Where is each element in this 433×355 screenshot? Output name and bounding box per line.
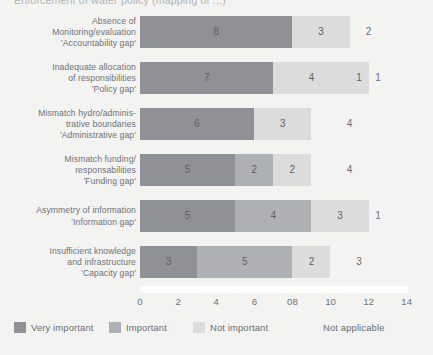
chart-row: Mismatch funding/responsabilities'Fundin… <box>0 154 433 200</box>
legend-swatch <box>306 322 318 333</box>
x-axis-tick-label: 10 <box>316 296 346 307</box>
legend-swatch <box>193 322 205 333</box>
stacked-bar: 5224 <box>140 154 388 186</box>
x-axis-tick-label: 14 <box>392 296 422 307</box>
bar-segment-value: 6 <box>194 118 200 129</box>
bar-segment-value: 1 <box>375 210 381 221</box>
stacked-bar: 832 <box>140 16 388 48</box>
bar-segment: 2 <box>292 246 330 278</box>
category-label-line: and infrastructure <box>4 257 136 268</box>
bar-segment-value: 2 <box>252 164 258 175</box>
bar-segment-value: 5 <box>185 210 191 221</box>
category-label-line: 'Policy gap' <box>4 84 136 95</box>
bar-segment: 4 <box>235 200 311 232</box>
chart-row: Mismatch hydro/adminis-trative boundarie… <box>0 108 433 154</box>
category-label-line: 'Information gap' <box>4 217 136 228</box>
legend-swatch <box>14 322 26 333</box>
x-axis: 024608101214 <box>0 296 433 314</box>
bar-segment-value: 3 <box>280 118 286 129</box>
category-label: Absence ofMonitoring/evaluation'Accounta… <box>4 16 136 50</box>
x-axis-baseline <box>140 286 408 293</box>
bar-segment-value: 3 <box>318 26 324 37</box>
stacked-bar: 634 <box>140 108 388 140</box>
figure-title-clipped: Enforcement of water policy (mapping of … <box>14 0 414 6</box>
chart-row: Asymmetry of information'Information gap… <box>0 200 433 246</box>
bar-segment: 1 <box>369 62 388 94</box>
legend-item[interactable]: Not important <box>193 322 268 333</box>
category-label-line: 'Capacity gap' <box>4 268 136 279</box>
bar-segment-value: 3 <box>166 256 172 267</box>
bar-segment-value: 4 <box>309 72 315 83</box>
bar-segment: 4 <box>311 108 387 140</box>
category-label-line: of responsibilities <box>4 73 136 84</box>
bar-segment: 4 <box>311 154 387 186</box>
category-label-line: Monitoring/evaluation <box>4 27 136 38</box>
category-label-line: Asymmetry of information <box>4 205 136 216</box>
bar-segment-value: 5 <box>242 256 248 267</box>
legend-label: Not important <box>210 322 268 333</box>
bar-segment-value: 7 <box>204 72 210 83</box>
category-label-line: Mismatch funding/ <box>4 154 136 165</box>
legend-item[interactable]: Very important <box>14 322 94 333</box>
bar-segment: 5 <box>140 154 235 186</box>
chart-legend: Very importantImportantNot importantNot … <box>0 322 433 338</box>
bar-segment: 5 <box>197 246 292 278</box>
category-label-line: trative boundaries <box>4 119 136 130</box>
category-label: Insufficient knowledgeand infrastructure… <box>4 246 136 280</box>
bar-segment-value: 2 <box>290 164 296 175</box>
chart-row: Inadequate allocationof responsibilities… <box>0 62 433 108</box>
category-label-line: 'Administrative gap' <box>4 130 136 141</box>
bar-segment: 6 <box>140 108 254 140</box>
bar-segment-value: 2 <box>366 26 372 37</box>
category-label: Inadequate allocationof responsibilities… <box>4 62 136 96</box>
bar-segment: 3 <box>292 16 349 48</box>
bar-segment-value: 4 <box>347 164 353 175</box>
chart-row: Absence ofMonitoring/evaluation'Accounta… <box>0 16 433 62</box>
x-axis-tick-label: 4 <box>201 296 231 307</box>
plot-area: Absence ofMonitoring/evaluation'Accounta… <box>0 16 433 291</box>
bar-segment: 3 <box>254 108 311 140</box>
bar-segment: 2 <box>273 154 311 186</box>
category-label: Asymmetry of information'Information gap… <box>4 205 136 227</box>
bar-segment: 2 <box>350 16 388 48</box>
x-axis-tick-label: 08 <box>277 296 307 307</box>
category-label-line: Insufficient knowledge <box>4 246 136 257</box>
category-label-line: Absence of <box>4 16 136 27</box>
legend-swatch <box>109 322 121 333</box>
bar-segment-value: 1 <box>356 72 362 83</box>
stacked-bar: 5431 <box>140 200 388 232</box>
category-label: Mismatch hydro/adminis-trative boundarie… <box>4 108 136 142</box>
bar-segment-value: 1 <box>375 72 381 83</box>
x-axis-tick-label: 0 <box>125 296 155 307</box>
category-label-line: Mismatch hydro/adminis- <box>4 108 136 119</box>
chart-figure: Enforcement of water policy (mapping of … <box>0 0 433 355</box>
bar-segment-value: 4 <box>271 210 277 221</box>
category-label-line: responsabilities <box>4 165 136 176</box>
bar-segment-value: 3 <box>356 256 362 267</box>
legend-item[interactable]: Not applicable <box>306 322 385 333</box>
legend-item[interactable]: Important <box>109 322 167 333</box>
bar-segment: 1 <box>350 62 369 94</box>
bar-segment-value: 4 <box>347 118 353 129</box>
stacked-bar: 3523 <box>140 246 388 278</box>
category-label-line: Inadequate allocation <box>4 62 136 73</box>
category-label-line: 'Funding gap' <box>4 176 136 187</box>
bar-segment-value: 5 <box>185 164 191 175</box>
bar-segment: 3 <box>140 246 197 278</box>
legend-label: Very important <box>31 322 94 333</box>
bar-segment: 4 <box>273 62 349 94</box>
bar-segment-value: 3 <box>337 210 343 221</box>
bar-segment-value: 8 <box>213 26 219 37</box>
bar-segment: 5 <box>140 200 235 232</box>
bar-segment: 3 <box>330 246 387 278</box>
bar-segment: 1 <box>369 200 388 232</box>
category-label-line: 'Accountability gap' <box>4 38 136 49</box>
bar-segment: 3 <box>311 200 368 232</box>
stacked-bar: 7411 <box>140 62 388 94</box>
x-axis-tick-label: 2 <box>163 296 193 307</box>
category-label: Mismatch funding/responsabilities'Fundin… <box>4 154 136 188</box>
x-axis-tick-label: 12 <box>354 296 384 307</box>
legend-label: Not applicable <box>323 322 385 333</box>
bar-segment-value: 2 <box>309 256 315 267</box>
bar-segment: 2 <box>235 154 273 186</box>
